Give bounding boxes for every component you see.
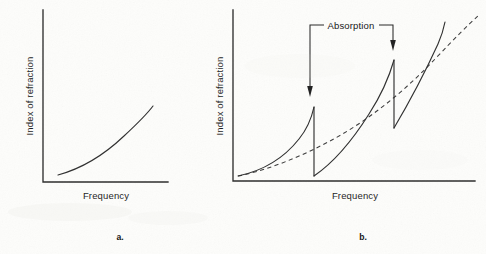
panel-b: Absorption Frequency Index of refraction… bbox=[214, 10, 478, 242]
absorption-annotation: Absorption bbox=[307, 20, 396, 97]
panel-a: Frequency Index of refraction a. bbox=[24, 10, 168, 242]
panel-b-branch-2 bbox=[314, 60, 394, 176]
panel-a-dispersion-curve bbox=[58, 106, 153, 175]
absorption-arrow-head-right bbox=[390, 40, 396, 51]
panel-b-branch-3 bbox=[394, 22, 445, 128]
absorption-arrow-head-left bbox=[307, 86, 313, 97]
absorption-label: Absorption bbox=[328, 20, 375, 31]
panel-b-reference-curve bbox=[238, 16, 478, 176]
panel-a-ylabel: Index of refraction bbox=[24, 57, 35, 136]
panel-b-xlabel: Frequency bbox=[332, 190, 378, 201]
dispersion-figure: Frequency Index of refraction a. Absorpt… bbox=[0, 0, 486, 254]
panel-a-caption: a. bbox=[116, 232, 123, 242]
panel-a-axes bbox=[43, 10, 168, 182]
panel-a-xlabel: Frequency bbox=[83, 190, 129, 201]
panel-b-axes bbox=[233, 10, 475, 181]
panel-b-ylabel: Index of refraction bbox=[214, 57, 225, 136]
panel-b-caption: b. bbox=[359, 232, 367, 242]
bracket-right bbox=[379, 25, 393, 32]
figure-canvas: Frequency Index of refraction a. Absorpt… bbox=[0, 0, 486, 254]
bracket-left bbox=[310, 25, 324, 32]
